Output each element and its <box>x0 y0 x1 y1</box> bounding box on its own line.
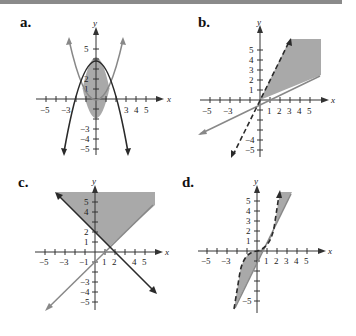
svg-text:5: 5 <box>142 257 147 267</box>
graph-a-plot: −5 −3 3 4 5 5 2 1 −3 −4 −5 x y <box>0 0 178 168</box>
svg-text:3: 3 <box>284 256 289 266</box>
svg-text:−3: −3 <box>80 277 90 287</box>
svg-text:5: 5 <box>84 197 89 207</box>
svg-text:5: 5 <box>304 256 309 266</box>
svg-text:x: x <box>164 247 169 257</box>
svg-text:y: y <box>253 176 258 186</box>
svg-text:2: 2 <box>274 256 279 266</box>
svg-text:x: x <box>166 94 171 104</box>
svg-text:1: 1 <box>102 257 107 267</box>
svg-text:4: 4 <box>249 55 254 65</box>
svg-text:−5: −5 <box>40 105 50 115</box>
svg-text:2: 2 <box>84 227 89 237</box>
svg-text:5: 5 <box>246 196 251 206</box>
svg-text:3: 3 <box>287 106 292 116</box>
svg-text:−4: −4 <box>245 135 255 145</box>
svg-text:5: 5 <box>84 44 89 54</box>
svg-text:x: x <box>327 246 332 256</box>
graph-d-plot: −5 −3 1 2 3 4 5 5 4 3 2 1 −5 x y <box>178 168 356 336</box>
svg-text:3: 3 <box>246 216 251 226</box>
svg-text:−5: −5 <box>201 256 211 266</box>
svg-text:1: 1 <box>246 236 251 246</box>
svg-text:y: y <box>91 176 96 186</box>
svg-text:−3: −3 <box>80 124 90 134</box>
svg-text:−4: −4 <box>80 287 90 297</box>
svg-text:−3: −3 <box>221 256 231 266</box>
svg-text:−1: −1 <box>79 257 89 267</box>
graph-b-plot: −5 −3 1 2 3 4 5 5 4 3 2 1 −4 −5 x y <box>178 0 356 168</box>
svg-text:−5: −5 <box>80 144 90 154</box>
svg-text:−4: −4 <box>80 134 90 144</box>
svg-text:4: 4 <box>294 256 299 266</box>
svg-text:−5: −5 <box>39 257 49 267</box>
svg-text:1: 1 <box>267 106 272 116</box>
svg-text:4: 4 <box>134 105 139 115</box>
svg-text:2: 2 <box>249 75 254 85</box>
svg-text:2: 2 <box>246 226 251 236</box>
svg-text:5: 5 <box>307 106 312 116</box>
svg-text:5: 5 <box>249 45 254 55</box>
svg-text:−5: −5 <box>202 106 212 116</box>
svg-text:3: 3 <box>249 65 254 75</box>
svg-text:3: 3 <box>124 105 129 115</box>
svg-text:−5: −5 <box>245 145 255 155</box>
svg-text:5: 5 <box>144 105 149 115</box>
svg-text:−3: −3 <box>59 257 69 267</box>
svg-text:4: 4 <box>246 206 251 216</box>
svg-text:y: y <box>92 18 97 28</box>
svg-text:4: 4 <box>297 106 302 116</box>
graph-b: b. −5 −3 1 2 3 4 5 5 4 3 2 <box>178 0 356 168</box>
svg-text:−3: −3 <box>61 105 71 115</box>
svg-text:4: 4 <box>132 257 137 267</box>
graph-d: d. −5 −3 1 2 3 4 5 5 4 3 2 <box>178 168 356 336</box>
svg-text:2: 2 <box>277 106 282 116</box>
svg-text:−5: −5 <box>242 296 252 306</box>
svg-text:y: y <box>256 17 261 27</box>
svg-text:x: x <box>330 95 335 105</box>
svg-text:4: 4 <box>84 207 89 217</box>
graph-c-plot: −5 −3 −1 1 2 4 5 5 4 2 1 −3 −4 −5 x y <box>0 168 178 336</box>
svg-text:1: 1 <box>249 85 254 95</box>
svg-text:1: 1 <box>264 256 269 266</box>
svg-text:2: 2 <box>112 257 117 267</box>
graph-a: a. −5 −3 3 4 5 5 2 1 − <box>0 0 178 168</box>
graph-c: c. −5 −3 −1 1 2 4 5 5 4 2 <box>0 168 178 336</box>
svg-text:1: 1 <box>84 237 89 247</box>
svg-text:−3: −3 <box>223 106 233 116</box>
svg-text:2: 2 <box>84 74 89 84</box>
svg-text:−5: −5 <box>80 297 90 307</box>
